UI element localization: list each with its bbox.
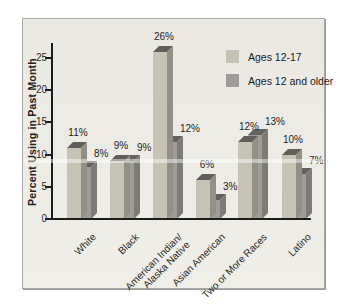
bar-ages-12-17 — [110, 161, 124, 219]
value-label: 9% — [101, 140, 141, 151]
legend-item-ages-12-and-older: Ages 12 and older — [226, 74, 333, 87]
value-label: 11% — [58, 127, 98, 138]
value-label: 10% — [273, 134, 313, 145]
figure: Percent Using in Past Month Ages 12-17 A… — [0, 0, 338, 307]
value-label: 26% — [144, 31, 184, 42]
y-axis-line — [51, 43, 53, 220]
value-label: 12% — [229, 121, 269, 132]
x-axis-line — [51, 218, 311, 220]
legend-label-ages-12-and-older: Ages 12 and older — [248, 75, 333, 87]
x-category-label: White — [13, 232, 98, 307]
bar-ages-12-17 — [67, 148, 81, 219]
y-tick-label: 10 — [23, 149, 47, 160]
value-label: 3% — [223, 181, 237, 192]
legend-swatch-ages-12-17 — [226, 50, 239, 63]
value-label: 7% — [309, 155, 323, 166]
x-category-label: Latino — [228, 232, 313, 307]
chart-card: Percent Using in Past Month Ages 12-17 A… — [22, 18, 325, 289]
value-label: 6% — [187, 159, 227, 170]
y-tick-label: 0 — [23, 213, 47, 224]
bar-ages-12-17 — [282, 155, 296, 219]
bar-ages-12-17 — [238, 142, 252, 219]
value-label: 13% — [265, 116, 285, 127]
x-category-label: American Indian/Alaska Native — [99, 232, 192, 307]
legend: Ages 12-17 Ages 12 and older — [226, 50, 333, 98]
y-tick-label: 15 — [23, 116, 47, 127]
y-tick-label: 20 — [23, 84, 47, 95]
bar-ages-12-17 — [153, 52, 167, 219]
value-label: 9% — [137, 142, 151, 153]
y-tick-label: 25 — [23, 52, 47, 63]
bar-ages-12-17 — [196, 180, 210, 219]
y-tick-label: 5 — [23, 181, 47, 192]
legend-label-ages-12-17: Ages 12-17 — [248, 51, 302, 63]
legend-swatch-ages-12-and-older — [226, 74, 239, 87]
value-label: 12% — [180, 123, 200, 134]
legend-item-ages-12-17: Ages 12-17 — [226, 50, 333, 63]
